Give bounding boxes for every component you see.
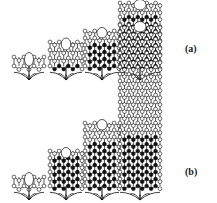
row-label-row-b: (b) [185, 166, 197, 177]
row-label-row-a: (a) [185, 43, 197, 54]
nanotube-structure [110, 20, 170, 203]
nanotube-growth-figure: (a)(b) [0, 0, 217, 203]
